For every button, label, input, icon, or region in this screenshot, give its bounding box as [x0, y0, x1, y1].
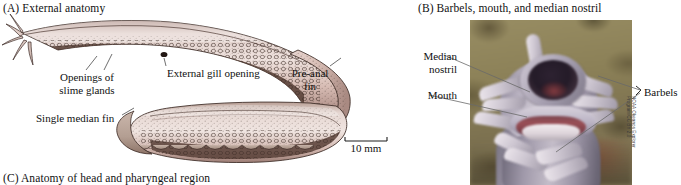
- panel-a-caption: (A) External anatomy: [3, 2, 105, 14]
- hagfish-lower-body: [117, 100, 352, 166]
- tail-fin: [117, 111, 152, 154]
- label-barbels: Barbels: [644, 86, 678, 99]
- hagfish-head-subject: [470, 20, 632, 185]
- median-nostril-opening: [528, 60, 578, 100]
- label-openings-of-slime-glands: Openings ofslime glands: [44, 71, 130, 96]
- leader-single-median-fin: [122, 108, 134, 115]
- label-external-gill-opening: External gill opening: [167, 67, 260, 80]
- scale-bar: [345, 137, 387, 141]
- median-fin-scallops: [134, 145, 314, 150]
- external-gill-opening-marker: [161, 52, 168, 57]
- figure-container: (A) External anatomy (B) Barbels, mouth,…: [0, 0, 681, 185]
- barbels-arrowhead: [636, 86, 641, 95]
- leader-slime-glands-1: [86, 56, 97, 70]
- hagfish-head-photo: [470, 20, 632, 185]
- head-barbels-illustration: [2, 14, 33, 65]
- label-single-median-fin: Single median fin: [36, 112, 114, 125]
- label-pre-anal-fin: Pre-analfin: [287, 67, 333, 92]
- photo-credit-line-2: Program/CC BY 2.0: [625, 96, 630, 176]
- panel-b-caption: (B) Barbels, mouth, and median nostril: [418, 2, 602, 14]
- photo-credit-line-1: NOAA Okeanos Explorer: [631, 96, 636, 176]
- label-mouth: Mouth: [397, 89, 457, 102]
- leader-slime-glands-2: [104, 54, 112, 70]
- hagfish-body-bend: [286, 48, 356, 144]
- leader-preanal-fin: [330, 58, 341, 66]
- photo-credit: NOAA Okeanos Explorer Program/CC BY 2.0: [625, 96, 636, 176]
- slime-gland-row-posterior: [140, 128, 350, 164]
- mouth-dental-plate: [522, 124, 580, 140]
- label-scale-bar: 10 mm: [342, 142, 390, 155]
- leader-gill-opening: [164, 58, 166, 66]
- label-median-nostril: Mediannostril: [397, 50, 457, 75]
- panel-c-caption: (C) Anatomy of head and pharyngeal regio…: [3, 172, 210, 184]
